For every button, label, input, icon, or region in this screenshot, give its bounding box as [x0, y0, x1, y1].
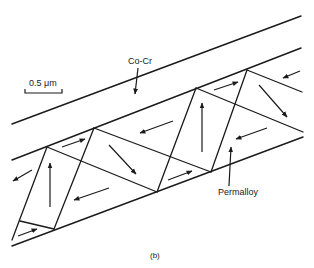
- cocr-label-group: Co-Cr: [128, 56, 152, 94]
- magnetization-arrow-icon: [283, 71, 300, 78]
- permalloy-label: Permalloy: [218, 187, 259, 197]
- magnetization-arrows: [13, 71, 300, 236]
- domain-wall: [47, 147, 157, 192]
- magnetization-arrow-icon: [62, 139, 85, 147]
- magnetization-arrow-icon: [13, 170, 32, 181]
- scale-bar: 0.5 μm: [25, 78, 62, 93]
- cocr-permalloy-interface: [12, 48, 301, 160]
- scale-bar-label: 0.5 μm: [29, 78, 57, 88]
- permalloy-pointer-arrow-icon: [229, 147, 231, 186]
- magnetization-arrow-icon: [140, 121, 173, 133]
- magnetization-arrow-icon: [18, 229, 37, 236]
- domain-wall: [196, 88, 303, 132]
- magnetization-arrow-icon: [74, 188, 109, 200]
- domain-diagram: 0.5 μm Co-Cr Permalloy (b): [0, 0, 314, 268]
- cocr-label: Co-Cr: [128, 56, 152, 66]
- magnetization-arrow-icon: [259, 85, 287, 117]
- cocr-pointer-arrow-icon: [135, 68, 138, 94]
- domain-walls: [12, 70, 303, 240]
- cocr-top-boundary: [12, 16, 301, 124]
- scale-bar-line: [25, 89, 62, 93]
- magnetization-arrow-icon: [168, 171, 192, 180]
- magnetization-arrow-icon: [214, 82, 238, 90]
- magnetization-arrow-icon: [109, 145, 136, 174]
- permalloy-label-group: Permalloy: [218, 147, 259, 197]
- figure-caption: (b): [150, 251, 160, 260]
- magnetization-arrow-icon: [236, 128, 267, 139]
- domain-wall: [94, 128, 211, 172]
- domain-wall: [20, 221, 54, 229]
